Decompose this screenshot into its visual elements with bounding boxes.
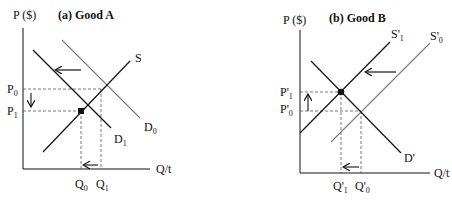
panel-b-p0-label: P'0 bbox=[280, 102, 293, 118]
panel-b-q1-label: Q'1 bbox=[333, 179, 348, 195]
panel-b-s0-label: S'0 bbox=[430, 29, 443, 45]
panel-b-x-axis-label: Q/t bbox=[434, 166, 450, 180]
panel-b-s1-label: S'1 bbox=[391, 27, 404, 43]
panel-a-p0-label: P0 bbox=[7, 82, 18, 98]
panel-b-supply-s1 bbox=[300, 42, 390, 133]
panel-a-p1-label: P1 bbox=[7, 104, 18, 120]
panel-b-supply-s0 bbox=[331, 43, 430, 142]
panel-a-good-a: P ($) (a) Good A Q/t D0 D1 S P0 P1 Q0 Q1 bbox=[7, 8, 172, 193]
panel-a-title: (a) Good A bbox=[58, 8, 114, 22]
panel-a-y-axis-label: P ($) bbox=[13, 8, 36, 22]
panel-b-y-axis-label: P ($) bbox=[283, 13, 306, 27]
panel-b-title: (b) Good B bbox=[329, 11, 386, 25]
panel-b-demand-d bbox=[311, 61, 401, 153]
panel-a-d1-label: D1 bbox=[114, 132, 127, 148]
supply-demand-diagram: P ($) (a) Good A Q/t D0 D1 S P0 P1 Q0 Q1 bbox=[0, 0, 452, 208]
panel-a-q0-label: Q0 bbox=[75, 177, 88, 193]
panel-a-x-axis-label: Q/t bbox=[156, 162, 172, 176]
panel-b-q0-label: Q'0 bbox=[355, 179, 370, 195]
panel-b-d-label: D' bbox=[404, 151, 415, 165]
panel-a-s-label: S bbox=[135, 51, 142, 65]
panel-b-new-equilibrium-dot bbox=[338, 89, 345, 96]
panel-b-good-b: P ($) (b) Good B Q/t S'0 S'1 D' P'1 P'0 … bbox=[280, 11, 450, 195]
panel-a-d0-label: D0 bbox=[144, 120, 157, 136]
panel-b-p1-label: P'1 bbox=[280, 85, 293, 101]
panel-a-new-equilibrium-dot bbox=[78, 108, 84, 114]
panel-a-q1-label: Q1 bbox=[96, 177, 109, 193]
